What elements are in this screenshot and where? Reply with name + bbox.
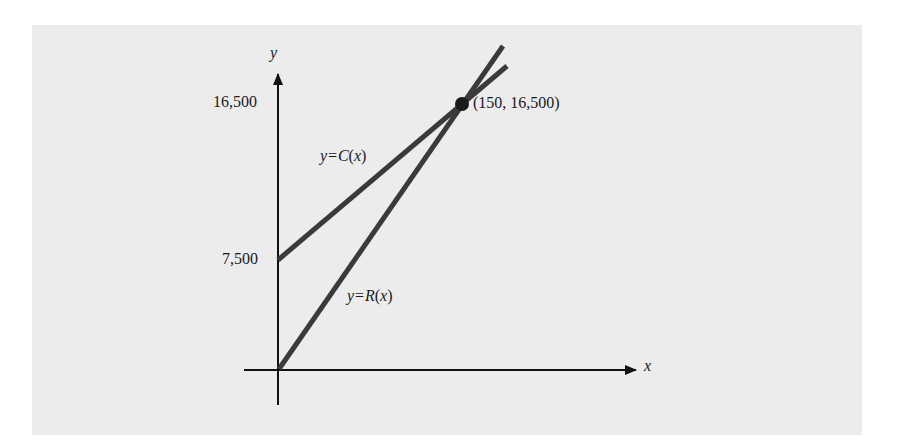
x-axis-label: x xyxy=(644,357,651,375)
rev-label-eq: y= xyxy=(347,287,365,304)
rev-label-fn: R xyxy=(365,287,375,304)
revenue-line-label: y=R(x) xyxy=(347,287,392,305)
cost-label-eq: y= xyxy=(320,147,338,164)
cost-line-label: y=C(x) xyxy=(320,147,366,165)
revenue-line xyxy=(279,46,503,369)
cost-label-var: x xyxy=(354,147,361,164)
rev-label-close: ) xyxy=(387,287,392,304)
chart-canvas xyxy=(0,0,898,447)
cost-label-close: ) xyxy=(361,147,366,164)
intersection-label: (150, 16,500) xyxy=(473,94,560,112)
cost-label-fn: C xyxy=(338,147,349,164)
tick-label-16500: 16,500 xyxy=(213,93,257,111)
intersection-point xyxy=(455,97,469,111)
y-axis-label: y xyxy=(270,44,277,62)
tick-label-7500: 7,500 xyxy=(222,250,258,268)
